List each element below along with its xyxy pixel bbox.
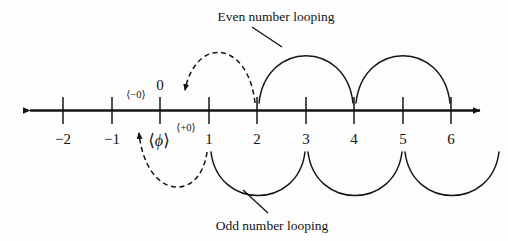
arc-solid-even-4-to-6 (356, 56, 450, 103)
annotation-leaders-group (243, 27, 282, 213)
tick-label-1: 1 (205, 131, 213, 147)
phi-label: ⟨ϕ⟩ (148, 131, 170, 150)
phi-symbol: ϕ (155, 132, 163, 150)
tick-labels-group: −2 −1 1 2 3 4 5 6 (55, 131, 455, 147)
number-line-svg: −2 −1 1 2 3 4 5 6 0 ⟨−0⟩ ⟨+0⟩ ⟨ϕ⟩ (0, 0, 508, 241)
tick-label-4: 4 (350, 131, 358, 147)
positive-zero-label: ⟨+0⟩ (176, 122, 195, 133)
tick-label-5: 5 (399, 131, 407, 147)
phi-open-bracket: ⟨ (148, 131, 155, 150)
arc-solid-odd-3-to-5 (308, 152, 402, 196)
zero-label: 0 (156, 77, 164, 93)
arcs-above-group (185, 52, 450, 103)
leader-line-even (252, 27, 282, 47)
tick-label-3: 3 (302, 131, 310, 147)
annotation-even-number-looping: Even number looping (218, 9, 335, 24)
negative-zero-label: ⟨−0⟩ (126, 89, 145, 100)
annotation-odd-number-looping: Odd number looping (216, 218, 329, 233)
leader-line-odd (243, 190, 268, 213)
arcs-below-group (139, 133, 499, 196)
arc-solid-odd-5-to-7 (405, 152, 499, 196)
number-line-diagram: −2 −1 1 2 3 4 5 6 0 ⟨−0⟩ ⟨+0⟩ ⟨ϕ⟩ (0, 0, 508, 241)
tick-label-minus-2: −2 (55, 131, 71, 147)
tick-label-2: 2 (253, 131, 261, 147)
zero-region-group: 0 ⟨−0⟩ ⟨+0⟩ ⟨ϕ⟩ (126, 77, 195, 150)
arc-solid-odd-1-to-3 (211, 152, 305, 196)
phi-close-bracket: ⟩ (163, 131, 170, 150)
tick-label-6: 6 (447, 131, 455, 147)
arc-solid-even-2-to-4 (259, 56, 353, 103)
tick-label-minus-1: −1 (104, 131, 120, 147)
arc-dashed-even-2-to-half (185, 52, 255, 103)
